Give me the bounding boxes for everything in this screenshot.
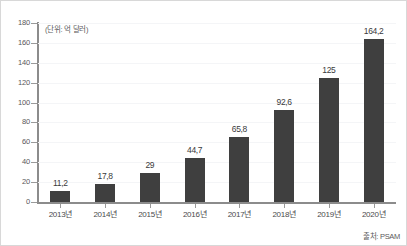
bar bbox=[364, 39, 384, 202]
x-axis-tick-label: 2016년 bbox=[183, 211, 206, 219]
bar bbox=[95, 184, 115, 202]
bar-value-label: 92,6 bbox=[276, 98, 291, 107]
x-axis-tick-label: 2013년 bbox=[49, 211, 72, 219]
y-axis-tick-label: 100 bbox=[4, 99, 30, 107]
x-axis-tick-label: 2017년 bbox=[228, 211, 251, 219]
unit-label: (단위: 억 달러) bbox=[45, 23, 88, 34]
y-axis-tick-label: 120 bbox=[4, 79, 30, 87]
bar-chart-figure: 020406080100120140160180 11,217,82944,76… bbox=[0, 0, 407, 246]
y-axis-tick-label: 20 bbox=[4, 178, 30, 186]
x-axis-tick-mark bbox=[239, 204, 240, 208]
bar-value-label: 164,2 bbox=[364, 27, 384, 36]
y-axis-tick-label: 0 bbox=[4, 198, 30, 206]
x-axis-tick-mark bbox=[374, 204, 375, 208]
bar bbox=[140, 173, 160, 202]
bar-value-label: 11,2 bbox=[53, 179, 68, 188]
x-axis-tick-mark bbox=[329, 204, 330, 208]
x-axis-tick-mark bbox=[150, 204, 151, 208]
y-axis-tick-label: 80 bbox=[4, 118, 30, 126]
bar-value-label: 44,7 bbox=[187, 146, 202, 155]
y-axis-tick-label: 140 bbox=[4, 59, 30, 67]
x-axis-tick-label: 2014년 bbox=[93, 211, 116, 219]
bar-value-label: 17,8 bbox=[97, 172, 112, 181]
y-axis-tick-label: 60 bbox=[4, 138, 30, 146]
plot-area bbox=[38, 23, 396, 202]
x-axis-tick-label: 2015년 bbox=[138, 211, 161, 219]
bar bbox=[229, 137, 249, 202]
bar-value-label: 65,8 bbox=[232, 125, 247, 134]
x-axis-tick-label: 2018년 bbox=[272, 211, 295, 219]
bar bbox=[185, 158, 205, 202]
y-axis-tick-label: 160 bbox=[4, 39, 30, 47]
x-axis-line bbox=[37, 202, 396, 204]
bar bbox=[319, 78, 339, 202]
x-axis-tick-mark bbox=[284, 204, 285, 208]
y-axis-tick-label-group: 020406080100120140160180 bbox=[1, 1, 30, 246]
y-axis-tick-label: 180 bbox=[4, 19, 30, 27]
x-axis-tick-mark bbox=[195, 204, 196, 208]
bar bbox=[274, 110, 294, 202]
source-label: 출처: PSAM bbox=[363, 230, 400, 241]
x-axis-tick-mark bbox=[105, 204, 106, 208]
y-axis-tick-label: 40 bbox=[4, 158, 30, 166]
x-axis-tick-label: 2020년 bbox=[362, 211, 385, 219]
x-axis-tick-label: 2019년 bbox=[317, 211, 340, 219]
bar bbox=[50, 191, 70, 202]
x-axis-tick-mark bbox=[60, 204, 61, 208]
bar-value-label: 125 bbox=[322, 66, 335, 75]
bar-value-label: 29 bbox=[145, 161, 154, 170]
